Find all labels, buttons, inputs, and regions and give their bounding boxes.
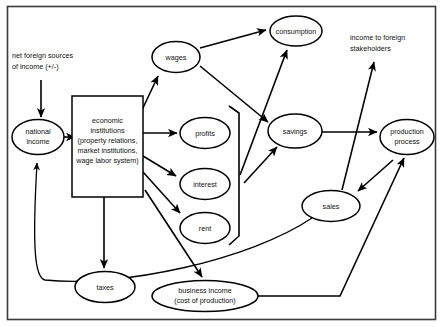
business-income-label-line1: business income	[178, 286, 232, 295]
net-foreign-sources-line1: net foreign sources	[12, 51, 74, 60]
wages-label: wages	[165, 53, 187, 62]
consumption-label: consumption	[276, 27, 317, 36]
edge-wages-to-savings	[200, 66, 268, 122]
factor-income-bracket	[229, 106, 239, 245]
business-income-label-line2: (cost of production)	[174, 296, 236, 305]
node-taxes[interactable]: taxes	[75, 272, 135, 303]
node-rent[interactable]: rent	[180, 213, 230, 244]
node-profits[interactable]: profits	[180, 118, 230, 149]
institutions-label-line3: (property relations,	[78, 136, 138, 145]
node-business-income[interactable]: business income (cost of production)	[152, 281, 258, 312]
node-sales[interactable]: sales	[302, 191, 360, 222]
economic-flow-diagram: national income economic institutions (p…	[0, 0, 443, 327]
institutions-label-line2: institutions	[91, 126, 125, 135]
node-savings[interactable]: savings	[268, 114, 322, 148]
node-consumption[interactable]: consumption	[270, 16, 322, 46]
taxes-label: taxes	[96, 283, 114, 292]
edge-institutions-to-rent	[143, 172, 180, 213]
national-income-label-line2: income	[26, 137, 49, 146]
edge-production-process-to-sales	[358, 160, 393, 191]
institutions-label-line1: economic	[92, 116, 123, 125]
institutions-label-line4: market institutions,	[78, 146, 138, 155]
rent-label: rent	[199, 224, 211, 233]
net-foreign-sources-line2: of income (+/-)	[12, 62, 59, 71]
edge-institutions-to-interest	[143, 156, 176, 176]
node-wages[interactable]: wages	[152, 42, 200, 73]
annotation-net-foreign-sources: net foreign sources of income (+/-)	[12, 51, 74, 71]
edge-factor-income-to-consumption	[240, 50, 287, 175]
node-economic-institutions[interactable]: economic institutions (property relation…	[72, 96, 143, 197]
node-interest[interactable]: interest	[180, 169, 230, 200]
foreign-stakeholders-line1: income to foreign	[350, 33, 405, 42]
interest-label: interest	[193, 180, 217, 189]
production-process-label-line2: process	[394, 137, 420, 146]
node-national-income[interactable]: national income	[12, 120, 64, 155]
savings-label: savings	[283, 127, 308, 136]
production-process-label-line1: production	[390, 127, 424, 136]
institutions-label-line5: wage labor system)	[75, 156, 138, 165]
national-income-label-line1: national	[25, 127, 51, 136]
edge-wages-to-consumption	[200, 30, 266, 48]
sales-label: sales	[323, 202, 340, 211]
edge-sales-to-foreign-stakeholders	[342, 62, 374, 190]
foreign-stakeholders-line2: stakeholders	[350, 44, 391, 53]
profits-label: profits	[195, 129, 215, 138]
edge-business-income-to-production-process	[258, 158, 404, 296]
annotation-income-to-foreign-stakeholders: income to foreign stakeholders	[350, 33, 405, 53]
diagram-canvas: national income economic institutions (p…	[0, 0, 443, 327]
node-production-process[interactable]: production process	[380, 120, 434, 155]
edge-institutions-to-wages	[142, 76, 158, 110]
